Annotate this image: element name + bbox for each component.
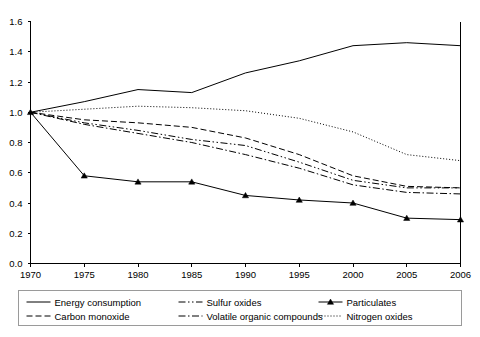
y-axis-tick-labels: 0.00.20.40.60.81.01.21.41.6 [9,16,22,269]
x-tick-label: 1975 [74,269,95,280]
y-tick-label: 1.6 [9,16,22,27]
axis-tick-marks [28,22,461,267]
y-tick-label: 0.2 [9,228,22,239]
y-tick-label: 1.0 [9,107,22,118]
y-tick-label: 0.0 [9,258,22,269]
legend-item-label: Energy consumption [55,297,142,308]
legend-item-label: Sulfur oxides [207,297,262,308]
x-tick-label: 1970 [20,269,41,280]
series-line [31,112,461,194]
x-tick-label: 1995 [289,269,310,280]
series-volatile-organic-compounds [31,112,461,194]
legend-item-label: Nitrogen oxides [347,311,413,322]
index-line-chart: 0.00.20.40.60.81.01.21.41.6 197019751980… [0,0,480,337]
chart-legend: Energy consumptionSulfur oxidesParticula… [19,291,462,326]
x-tick-label: 1985 [181,269,202,280]
chart-container: 0.00.20.40.60.81.01.21.41.6 197019751980… [0,0,480,337]
x-tick-label: 1980 [127,269,148,280]
series-energy-consumption [31,43,461,113]
y-tick-label: 1.2 [9,77,22,88]
x-tick-label: 2006 [450,269,471,280]
series-nitrogen-oxides [31,106,461,160]
x-tick-label: 2005 [396,269,417,280]
legend-item-label: Volatile organic compounds [207,311,323,322]
y-tick-label: 0.4 [9,198,22,209]
series-lines [27,43,463,222]
x-tick-label: 2000 [342,269,363,280]
legend-item-label: Carbon monoxide [55,311,130,322]
series-line [31,106,461,160]
x-tick-label: 1990 [235,269,256,280]
series-line [31,112,461,219]
y-tick-label: 0.8 [9,137,22,148]
series-line [31,43,461,113]
axes [31,22,461,264]
y-tick-label: 0.6 [9,167,22,178]
y-tick-label: 1.4 [9,46,22,57]
legend-item-label: Particulates [347,297,397,308]
x-axis-tick-labels: 197019751980198519901995200020052006 [20,269,471,280]
